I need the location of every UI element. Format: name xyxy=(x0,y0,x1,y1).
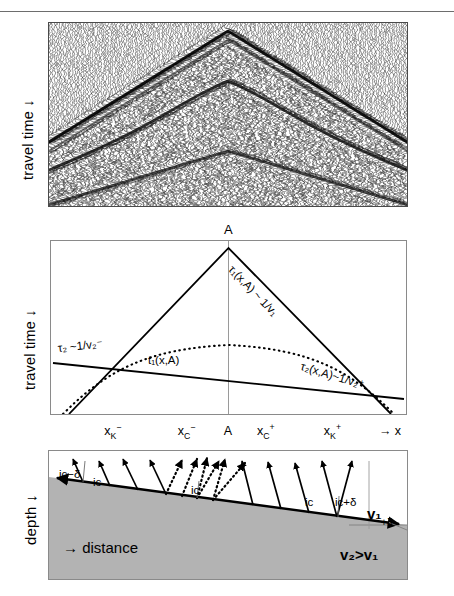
velocity-label-v2-gt-v1: v₂>v₁ xyxy=(340,546,378,563)
xtick-xk-plus: xK+ xyxy=(324,424,341,438)
section-x-axis-label: → distance xyxy=(63,539,138,556)
xtick-a: A xyxy=(224,424,232,438)
apex-label-top: A xyxy=(224,222,233,237)
travel-time-panel: τ₂ ~1/v₂⁻ τ₁(x,A) ~ 1/v₁ τ₂(x,A)~1/v₂⁺ t… xyxy=(50,240,407,415)
cross-section-panel: iᴄ−δ iᴄ iᴄ iᴄ iᴄ+δ v₁ v₂>v₁ +δ → distanc… xyxy=(48,450,408,580)
seismic-wiggle-traces xyxy=(49,23,407,206)
xtick-xc-minus: xC− xyxy=(178,424,196,438)
seismic-y-axis-label: travel time ↓ xyxy=(20,99,36,180)
angle-label-ic-plus-delta: iᴄ+δ xyxy=(335,496,356,508)
xtick-axis-arrow: → x xyxy=(379,424,401,438)
xtick-xc-plus: xC+ xyxy=(257,424,275,438)
section-y-axis-label: depth ↓ xyxy=(22,494,39,545)
x-axis-tick-row: xK− xC− A xC+ xK+ → x xyxy=(48,424,408,444)
t1-label: t₁(x,A) xyxy=(148,354,179,366)
angle-label-ic-left: iᴄ xyxy=(93,476,101,488)
figure-root: travel time ↓ travel time ↓ depth ↓ A xyxy=(0,0,454,596)
angle-label-ic-minus-delta: iᴄ−δ xyxy=(59,468,80,480)
traveltime-y-axis-label: travel time ↓ xyxy=(22,309,38,390)
dip-angle-label: +δ xyxy=(381,517,392,528)
xtick-xk-minus: xK− xyxy=(104,424,121,438)
angle-label-ic-center: iᴄ xyxy=(191,484,199,496)
angle-label-ic-right: iᴄ xyxy=(305,496,313,508)
seismic-record-panel xyxy=(48,22,408,207)
velocity-label-v1: v₁ xyxy=(367,505,382,522)
header-divider xyxy=(0,11,454,12)
